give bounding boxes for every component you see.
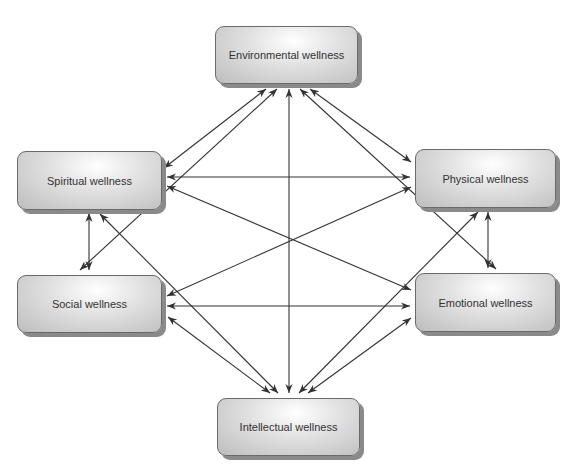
node-environmental-wellness: Environmental wellness <box>215 26 358 84</box>
node-label: Physical wellness <box>442 173 528 185</box>
node-label: Intellectual wellness <box>240 421 338 433</box>
node-spiritual-wellness: Spiritual wellness <box>17 151 162 210</box>
node-label: Social wellness <box>52 298 127 310</box>
arrow-social-intellectual <box>168 317 270 393</box>
node-social-wellness: Social wellness <box>17 275 162 333</box>
node-emotional-wellness: Emotional wellness <box>415 273 556 332</box>
node-intellectual-wellness: Intellectual wellness <box>217 398 360 456</box>
node-label: Environmental wellness <box>229 49 345 61</box>
node-label: Emotional wellness <box>438 297 532 309</box>
node-label: Spiritual wellness <box>47 175 132 187</box>
arrow-environmental-spiritual <box>164 89 266 168</box>
node-physical-wellness: Physical wellness <box>415 149 556 208</box>
arrow-emotional-intellectual <box>308 318 411 393</box>
arrow-environmental-physical <box>310 89 411 162</box>
